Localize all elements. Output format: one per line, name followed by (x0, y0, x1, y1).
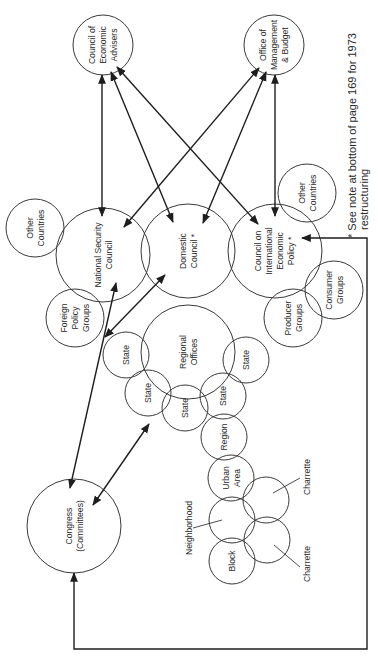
foreign-policy-groups-label: Foreign Policy Groups (59, 303, 91, 332)
state-1-label: State (121, 345, 131, 365)
svg-text:State: State (121, 345, 131, 365)
consumer-groups-label: Consumer Groups (324, 270, 345, 310)
charrette-2-circle (244, 517, 290, 563)
edge-omb-dc (203, 72, 266, 223)
svg-text:State: State (143, 383, 153, 403)
charrette-1-circle (243, 477, 289, 523)
consumer-groups-circle (305, 261, 363, 319)
svg-text:Congress: Congress (64, 508, 74, 545)
svg-text:& Budget: & Budget (280, 27, 290, 63)
producer-groups-label: Producer Groups (283, 300, 304, 335)
svg-text:Domestic: Domestic (178, 232, 188, 269)
block-label: Block (227, 550, 237, 572)
svg-text:Council: Council (104, 241, 114, 270)
svg-text:Groups: Groups (81, 304, 91, 332)
svg-text:Policy: Policy (70, 306, 80, 330)
node-labels: Council of Economic Advisers Office of M… (25, 19, 345, 582)
neighborhood-circle (209, 497, 255, 543)
footnote: * See note at bottom of page 169 for 197… (346, 33, 370, 238)
svg-text:Policy *: Policy * (286, 236, 296, 265)
svg-text:Neighborhood: Neighborhood (184, 501, 194, 555)
node-circles (6, 15, 363, 584)
edge-congress-regional (93, 424, 149, 505)
edges (70, 67, 367, 649)
svg-text:Council *: Council * (189, 233, 199, 268)
svg-text:Countries: Countries (36, 210, 46, 247)
charrette-1-label: Charrette (302, 459, 312, 495)
nsc-label: National Security Council (93, 222, 114, 288)
other-countries-left-circle (6, 199, 64, 257)
svg-text:Economic: Economic (275, 231, 285, 269)
nsc-circle (56, 208, 150, 302)
svg-text:Groups: Groups (294, 304, 304, 332)
dc-label: Domestic Council * (178, 232, 199, 269)
svg-text:National Security: National Security (93, 222, 103, 288)
svg-text:State: State (241, 350, 251, 370)
charrette-2-label: Charrette (302, 546, 312, 582)
svg-text:Office of: Office of (258, 28, 268, 60)
svg-text:Area: Area (232, 469, 242, 487)
other-countries-right-circle (278, 164, 336, 222)
svg-text:Consumer: Consumer (324, 270, 334, 310)
svg-text:Council of: Council of (87, 25, 97, 64)
svg-text:Producer: Producer (283, 300, 293, 335)
svg-text:International: International (264, 227, 274, 274)
regional-offices-label: Regional Offices (178, 335, 199, 369)
state-5-label: State (241, 350, 251, 370)
cea-label: Council of Economic Advisers (87, 25, 119, 64)
producer-groups-circle (264, 289, 322, 347)
neighborhood-label: Neighborhood (184, 501, 194, 555)
svg-text:State: State (180, 398, 190, 418)
svg-text:State: State (218, 386, 228, 406)
svg-text:Block: Block (227, 550, 237, 572)
region-label: Region (219, 423, 229, 450)
svg-text:Charrette: Charrette (302, 546, 312, 582)
svg-text:Urban: Urban (221, 466, 231, 490)
charrette-2-leader (274, 545, 300, 567)
state-3-label: State (180, 398, 190, 418)
neighborhood-leader (193, 520, 222, 528)
svg-text:Groups: Groups (335, 276, 345, 304)
edge-dc-foreign (105, 275, 165, 337)
svg-text:Regional: Regional (178, 335, 188, 369)
policy-structure-diagram: Council of Economic Advisers Office of M… (0, 0, 378, 657)
svg-text:Countries: Countries (308, 175, 318, 212)
other-countries-left-label: Other Countries (25, 210, 46, 247)
state-2-label: State (143, 383, 153, 403)
ciep-label: Council on International Economic Policy… (253, 227, 296, 274)
svg-text:Council on: Council on (253, 230, 263, 271)
urban-area-label: Urban Area (221, 466, 242, 490)
footnote-line2: restructuring (358, 169, 370, 230)
edge-cea-ciep (117, 67, 258, 224)
svg-text:Other: Other (297, 182, 307, 204)
congress-circle (27, 479, 121, 573)
svg-text:(Committees): (Committees) (75, 500, 85, 552)
svg-text:Economic: Economic (98, 25, 108, 63)
svg-text:Offices: Offices (189, 339, 199, 366)
svg-text:Management: Management (269, 19, 279, 70)
svg-text:Foreign: Foreign (59, 303, 69, 332)
svg-text:Advisers: Advisers (109, 29, 119, 62)
svg-text:Region: Region (219, 423, 229, 450)
dc-circle (141, 204, 235, 298)
footnote-line1: * See note at bottom of page 169 for 197… (346, 33, 358, 238)
other-countries-right-label: Other Countries (297, 175, 318, 212)
urban-area-circle (208, 455, 254, 501)
svg-text:Charrette: Charrette (302, 459, 312, 495)
state-4-label: State (218, 386, 228, 406)
omb-label: Office of Management & Budget (258, 19, 290, 70)
svg-text:Other: Other (25, 217, 35, 239)
congress-label: Congress (Committees) (64, 500, 85, 552)
